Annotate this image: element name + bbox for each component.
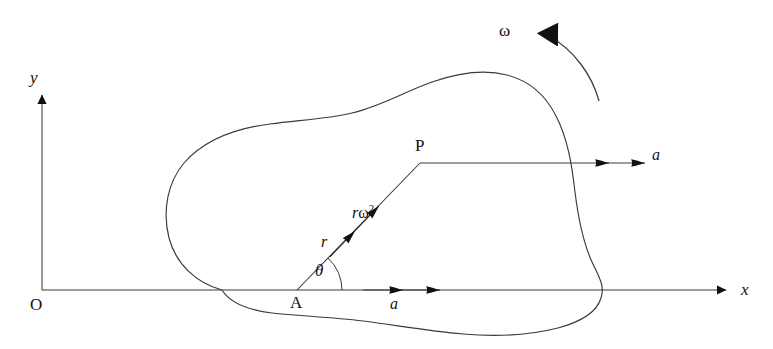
theta-arc	[328, 258, 342, 290]
theta-label: θ	[315, 262, 323, 279]
y-axis-label: y	[30, 69, 38, 86]
origin-label: O	[30, 296, 42, 313]
acceleration-label-at-a: a	[390, 296, 398, 312]
acceleration-label-at-p: a	[652, 147, 660, 163]
mechanics-figure: O y x P A r θ rω2 a a ω	[0, 0, 773, 349]
centripetal-acceleration-label: rω2	[352, 203, 374, 221]
angular-velocity-label: ω	[499, 22, 510, 39]
centripetal-exponent: 2	[369, 202, 374, 214]
angular-velocity-arc	[549, 36, 599, 101]
point-a-label: A	[290, 294, 302, 311]
radius-label: r	[321, 234, 327, 250]
x-axis-label: x	[741, 281, 749, 298]
rigid-body-outline	[166, 72, 602, 335]
point-p-label: P	[415, 137, 424, 154]
centripetal-omega: ω	[358, 204, 369, 221]
figure-canvas	[0, 0, 773, 349]
